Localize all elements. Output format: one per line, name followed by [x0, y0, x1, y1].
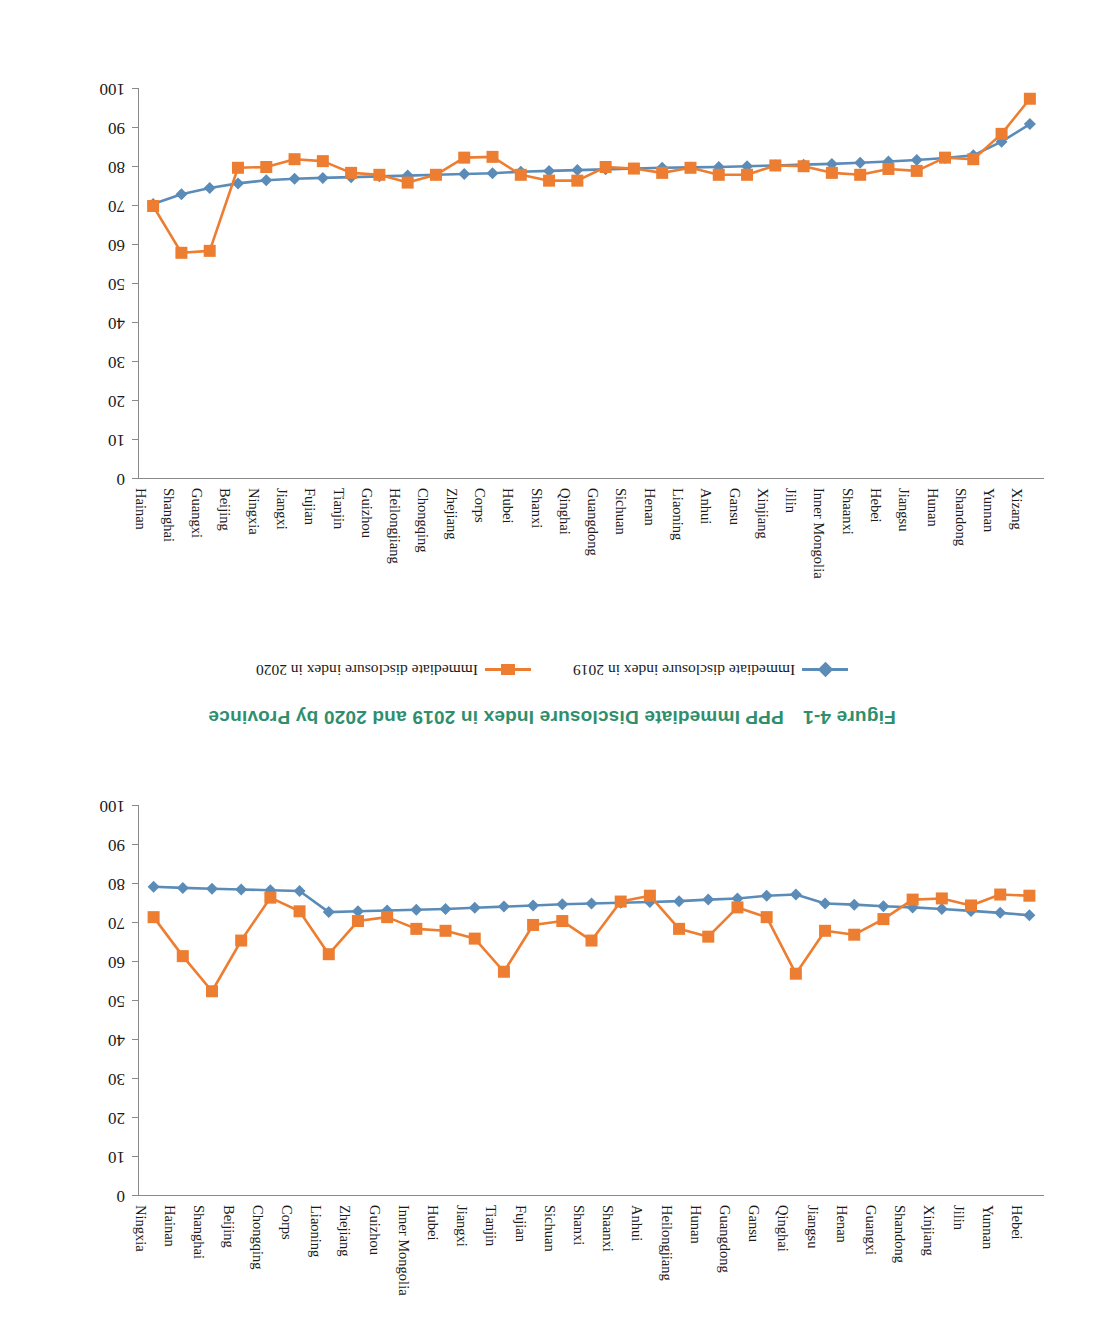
- series-marker-square: [586, 935, 598, 947]
- series-marker-square: [600, 161, 612, 173]
- series-marker-square: [345, 167, 357, 179]
- series-marker-diamond: [854, 157, 866, 169]
- series-marker-diamond: [440, 903, 452, 915]
- series-marker-square: [615, 896, 627, 908]
- diamond-marker-icon: [802, 663, 848, 677]
- series-marker-diamond: [498, 901, 510, 913]
- bottom-chart-panel: 0102030405060708090100XizangYunnanShando…: [0, 0, 1104, 639]
- series-marker-diamond: [458, 168, 470, 180]
- series-marker-diamond: [586, 898, 598, 910]
- legend-label-2019: Immediate disclosure index in 2019: [573, 661, 795, 679]
- series-line: [153, 99, 1030, 253]
- series-marker-square: [373, 169, 385, 181]
- series-marker-diamond: [206, 883, 218, 895]
- series-layer: [0, 69, 1104, 639]
- series-marker-diamond: [790, 889, 802, 901]
- series-marker-square: [819, 925, 831, 937]
- series-marker-square: [656, 167, 668, 179]
- series-marker-square: [498, 966, 510, 978]
- series-marker-square: [761, 911, 773, 923]
- series-marker-square: [741, 169, 753, 181]
- series-marker-diamond: [936, 903, 948, 915]
- series-marker-diamond: [761, 890, 773, 902]
- figure-title: Figure 4-1 PPP Immediate Disclosure Inde…: [0, 706, 1104, 733]
- series-line: [153, 124, 1030, 204]
- bottom-chart-plot-area: 0102030405060708090100XizangYunnanShando…: [0, 69, 1104, 639]
- series-marker-square: [967, 153, 979, 165]
- series-marker-diamond: [702, 894, 714, 906]
- series-marker-square: [798, 160, 810, 172]
- series-marker-diamond: [235, 883, 247, 895]
- series-marker-diamond: [673, 895, 685, 907]
- series-marker-diamond: [410, 904, 422, 916]
- series-marker-diamond: [175, 188, 187, 200]
- series-marker-square: [175, 247, 187, 259]
- series-marker-square: [731, 901, 743, 913]
- series-layer: [0, 786, 1104, 1339]
- series-marker-square: [148, 911, 160, 923]
- series-marker-square: [877, 913, 889, 925]
- series-marker-diamond: [469, 902, 481, 914]
- series-marker-square: [515, 169, 527, 181]
- series-marker-diamond: [848, 899, 860, 911]
- series-marker-square: [939, 152, 951, 164]
- series-marker-square: [543, 175, 555, 187]
- square-marker-icon: [485, 663, 531, 677]
- series-marker-square: [826, 167, 838, 179]
- series-marker-diamond: [289, 173, 301, 185]
- chart-legend: Immediate disclosure index in 2019 Immed…: [0, 661, 1104, 679]
- legend-label-2020: Immediate disclosure index in 2020: [256, 661, 478, 679]
- series-marker-diamond: [1024, 118, 1036, 130]
- series-marker-diamond: [204, 182, 216, 194]
- series-marker-square: [235, 935, 247, 947]
- series-marker-square: [673, 923, 685, 935]
- series-marker-square: [147, 200, 159, 212]
- series-marker-square: [440, 925, 452, 937]
- series-marker-square: [177, 950, 189, 962]
- series-marker-diamond: [527, 899, 539, 911]
- series-marker-square: [713, 169, 725, 181]
- top-chart-plot-area: 0102030405060708090100HebeiYunnanJilinXi…: [0, 786, 1104, 1339]
- series-marker-diamond: [260, 174, 272, 186]
- series-marker-square: [430, 169, 442, 181]
- series-marker-diamond: [556, 898, 568, 910]
- series-marker-square: [264, 892, 276, 904]
- series-marker-square: [848, 929, 860, 941]
- series-marker-square: [571, 175, 583, 187]
- series-marker-square: [769, 159, 781, 171]
- series-marker-square: [684, 162, 696, 174]
- series-marker-diamond: [1023, 909, 1035, 921]
- series-marker-square: [994, 889, 1006, 901]
- series-marker-square: [487, 151, 499, 163]
- series-marker-square: [911, 165, 923, 177]
- series-marker-square: [854, 169, 866, 181]
- series-marker-diamond: [911, 154, 923, 166]
- series-marker-square: [410, 923, 422, 935]
- series-marker-square: [317, 155, 329, 167]
- series-marker-square: [232, 162, 244, 174]
- series-marker-diamond: [177, 882, 189, 894]
- series-marker-square: [996, 128, 1008, 140]
- legend-item-2019[interactable]: Immediate disclosure index in 2019: [573, 661, 848, 679]
- series-marker-square: [206, 985, 218, 997]
- series-marker-square: [1024, 93, 1036, 105]
- series-marker-square: [965, 899, 977, 911]
- series-marker-square: [628, 163, 640, 175]
- series-marker-diamond: [317, 172, 329, 184]
- series-marker-square: [323, 948, 335, 960]
- series-marker-diamond: [819, 898, 831, 910]
- series-marker-diamond: [571, 164, 583, 176]
- series-marker-square: [469, 933, 481, 945]
- series-marker-square: [289, 153, 301, 165]
- series-marker-square: [294, 905, 306, 917]
- legend-item-2020[interactable]: Immediate disclosure index in 2020: [256, 661, 531, 679]
- series-marker-square: [458, 152, 470, 164]
- series-marker-square: [907, 894, 919, 906]
- series-marker-diamond: [877, 900, 889, 912]
- series-marker-square: [381, 911, 393, 923]
- series-marker-diamond: [994, 907, 1006, 919]
- series-marker-diamond: [148, 881, 160, 893]
- series-marker-square: [352, 915, 364, 927]
- series-marker-square: [402, 177, 414, 189]
- series-marker-square: [556, 915, 568, 927]
